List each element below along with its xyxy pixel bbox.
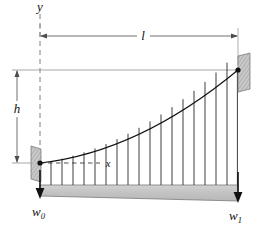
load-left-subscript: 0 — [41, 211, 46, 221]
y-axis: y — [35, 0, 43, 172]
diagram-canvas: l y h — [0, 0, 267, 227]
load-labels: w0 w1 — [32, 204, 242, 225]
fixed-support-plate-icon — [238, 53, 250, 92]
height-arrowhead-top — [15, 70, 20, 77]
load-right-label-group: w1 — [229, 208, 242, 225]
height-label: h — [14, 101, 21, 116]
height-dimension: h — [14, 70, 21, 163]
cable-load-diagram: l y h — [0, 0, 267, 227]
pin-joint-icon — [37, 160, 42, 165]
load-left-symbol: w — [32, 204, 41, 219]
beam-body — [40, 185, 238, 201]
left-support — [31, 146, 43, 182]
load-left-label-group: w0 — [32, 204, 46, 221]
span-label: l — [141, 28, 145, 43]
height-arrowhead-bottom — [15, 156, 20, 163]
load-right-symbol: w — [229, 208, 238, 223]
span-arrowhead-left — [40, 33, 47, 38]
y-axis-label: y — [35, 0, 43, 14]
span-dimension: l — [40, 24, 238, 66]
pin-joint-icon — [235, 67, 240, 72]
height-reference-lines — [12, 70, 238, 163]
load-right-subscript: 1 — [238, 215, 242, 225]
span-arrowhead-right — [231, 33, 238, 38]
load-beam — [40, 185, 238, 201]
x-label: x — [105, 158, 111, 169]
distributed-load-lines — [51, 63, 237, 185]
